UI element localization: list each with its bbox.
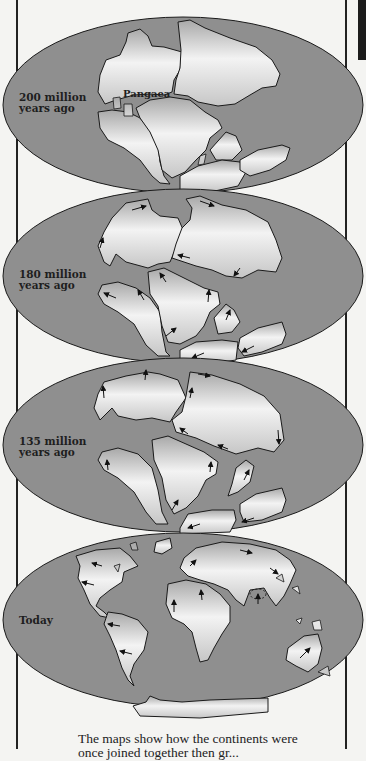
label-line2: years ago [19,447,86,458]
map-today [3,533,363,718]
map-label-today: Today [19,615,53,626]
label-line1: Today [19,615,53,626]
pangaea-label: Pangaea [123,88,170,99]
label-line2: years ago [19,103,86,114]
landmass-antarctica [180,510,236,534]
figure-caption-line2: once joined together then gr... [78,745,239,761]
map-label-135-million: 135 million years ago [19,436,86,458]
map-label-180-million: 180 million years ago [19,269,86,291]
label-line2: years ago [19,280,86,291]
map-label-200-million: 200 million years ago [19,92,86,114]
